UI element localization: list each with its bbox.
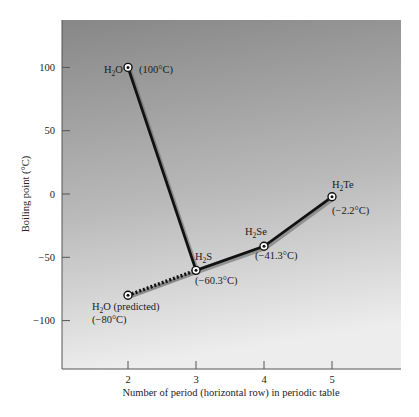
value-label: (−60.3°C) bbox=[195, 275, 238, 287]
y-tick-label: 100 bbox=[39, 62, 55, 73]
value-label: (−80°C) bbox=[92, 314, 127, 326]
value-label: (−41.3°C) bbox=[255, 250, 298, 262]
y-tick-label: 50 bbox=[45, 125, 56, 136]
x-tick-label: 4 bbox=[261, 374, 267, 385]
x-axis-title: Number of period (horizontal row) in per… bbox=[122, 387, 340, 399]
y-tick-label: 0 bbox=[50, 189, 55, 200]
x-tick-label: 5 bbox=[329, 374, 334, 385]
value-label: (100°C) bbox=[139, 64, 173, 76]
boiling-point-chart: 100500−50−100 2345 Boiling point (°C) Nu… bbox=[0, 0, 419, 417]
y-axis-title: Boiling point (°C) bbox=[20, 155, 32, 232]
x-tick-label: 2 bbox=[125, 374, 130, 385]
y-tick-label: −50 bbox=[39, 252, 55, 263]
x-tick-label: 3 bbox=[193, 374, 198, 385]
y-tick-label: −100 bbox=[33, 315, 55, 326]
value-label: (−2.2°C) bbox=[332, 205, 370, 217]
